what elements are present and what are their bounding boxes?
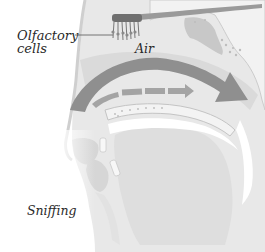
upper-tooth — [100, 138, 106, 152]
air-label: Air — [135, 43, 154, 56]
olfactory-label-line2: cells — [17, 42, 78, 55]
sniffing-caption: Sniffing — [27, 205, 77, 218]
tongue — [114, 125, 232, 245]
fade-overlay — [55, 130, 95, 252]
olfactory-cells-label: Olfactory cells — [17, 29, 78, 55]
olfactory-bulb-base — [112, 14, 142, 22]
